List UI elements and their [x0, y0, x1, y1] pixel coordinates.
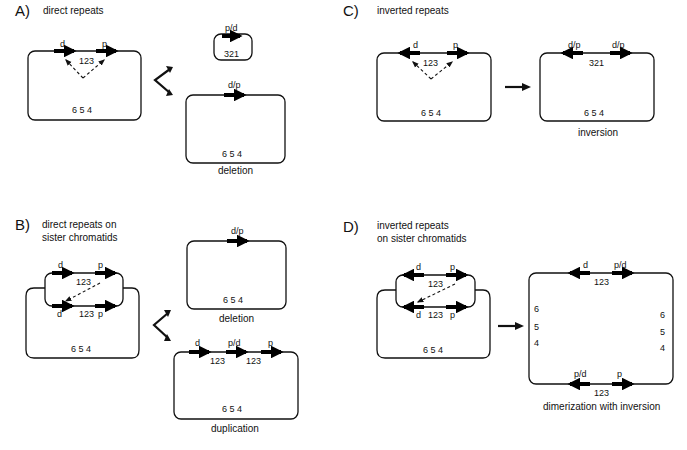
- right-6-label: 6: [660, 310, 665, 320]
- bottom-segment-label: 123: [79, 309, 94, 319]
- arrowhead-icon: [515, 322, 524, 330]
- top-d-label: d: [583, 260, 588, 270]
- panel-c-title: inverted repeats: [377, 5, 449, 16]
- bottom-p-label: p: [98, 309, 103, 319]
- repeat-dp-label: d/p: [231, 226, 244, 236]
- segment-bottom-label: 6 5 4: [223, 295, 243, 305]
- bottom-p-label: p: [617, 369, 622, 379]
- bottom-pd-label: p/d: [574, 369, 587, 379]
- panel-d-title-line2: on sister chromatids: [377, 233, 466, 244]
- segment-321-label: 321: [224, 49, 239, 59]
- deletion-caption: deletion: [218, 165, 253, 176]
- segment-2-label: 123: [246, 356, 261, 366]
- bottom-p-label: p: [450, 310, 455, 320]
- left-4-label: 4: [534, 338, 539, 348]
- recombination-diagram: A) direct repeats d p 123 6 5 4 p/d 321 …: [0, 0, 687, 450]
- segment-bottom-label: 6 5 4: [222, 404, 242, 414]
- panel-b-title-line1: direct repeats on: [42, 219, 117, 230]
- top-d-label: d: [416, 262, 421, 272]
- repeat-dp-right-label: d/p: [612, 40, 625, 50]
- panel-c-letter: C): [343, 2, 359, 19]
- panel-c: C) inverted repeats d p 123 6 5 4 d/p d/…: [343, 2, 654, 138]
- repeat-d-label: d: [195, 338, 200, 348]
- segment-bottom-label: 6 5 4: [222, 149, 242, 159]
- top-d-label: d: [58, 260, 63, 270]
- segment-bottom-label: 6 5 4: [423, 345, 443, 355]
- repeat-dp-label: d/p: [228, 80, 241, 90]
- top-segment-label: 123: [594, 277, 609, 287]
- left-5-label: 5: [534, 322, 539, 332]
- panel-d: D) inverted repeats on sister chromatids…: [343, 218, 673, 412]
- dimerization-caption: dimerization with inversion: [543, 401, 660, 412]
- bottom-segment-label: 123: [428, 310, 443, 320]
- top-p-label: p: [450, 262, 455, 272]
- panel-b: B) direct repeats on sister chromatids d…: [15, 216, 298, 434]
- top-p-label: p: [98, 260, 103, 270]
- panel-b-letter: B): [15, 216, 30, 233]
- right-4-label: 4: [660, 343, 665, 353]
- segment-1-label: 123: [210, 356, 225, 366]
- segment-bottom-label: 6 5 4: [421, 108, 441, 118]
- top-segment-label: 123: [428, 279, 443, 289]
- panel-a: A) direct repeats d p 123 6 5 4 p/d 321 …: [15, 2, 285, 176]
- panel-b-title-line2: sister chromatids: [42, 232, 118, 243]
- segment-label: 123: [423, 58, 438, 68]
- bottom-d-label: d: [57, 309, 62, 319]
- arrowhead-icon: [522, 83, 531, 91]
- repeat-p-label: p: [268, 338, 273, 348]
- inversion-caption: inversion: [578, 127, 618, 138]
- segment-label: 123: [79, 56, 94, 66]
- left-6-label: 6: [534, 304, 539, 314]
- bottom-d-label: d: [416, 310, 421, 320]
- repeat-d-label: d: [413, 40, 418, 50]
- top-segment-label: 123: [76, 277, 91, 287]
- repeat-pd-label: p/d: [228, 338, 241, 348]
- repeat-dp-left-label: d/p: [568, 40, 581, 50]
- deletion-caption: deletion: [219, 313, 254, 324]
- panel-d-letter: D): [343, 218, 359, 235]
- repeat-p-label: p: [453, 40, 458, 50]
- split-arrow-icon: [154, 313, 168, 338]
- segment-321-label: 321: [589, 58, 604, 68]
- segment-bottom-label: 6 5 4: [72, 105, 92, 115]
- repeat-d-label: d: [60, 39, 65, 49]
- repeat-pd-label: p/d: [225, 23, 238, 33]
- panel-d-title-line1: inverted repeats: [377, 220, 449, 231]
- top-pd-label: p/d: [614, 260, 627, 270]
- duplication-caption: duplication: [211, 423, 259, 434]
- repeat-p-label: p: [102, 39, 107, 49]
- right-5-label: 5: [660, 327, 665, 337]
- segment-bottom-label: 6 5 4: [71, 344, 91, 354]
- split-arrow-icon: [155, 69, 170, 93]
- panel-a-title: direct repeats: [43, 5, 104, 16]
- panel-a-letter: A): [15, 2, 30, 19]
- segment-bottom-label: 6 5 4: [584, 108, 604, 118]
- bottom-segment-label: 123: [594, 388, 609, 398]
- dimer-product: [529, 273, 673, 384]
